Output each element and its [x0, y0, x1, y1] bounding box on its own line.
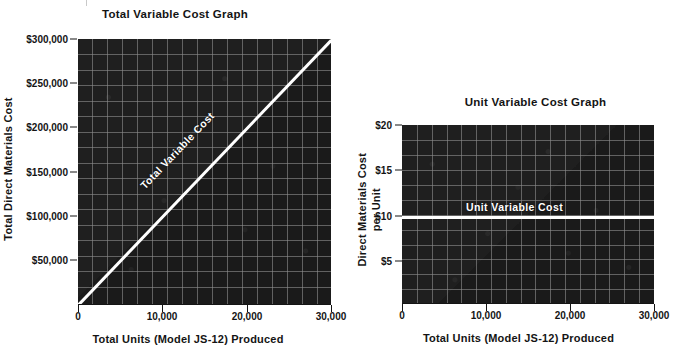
x-tick-label: 30,000: [639, 310, 670, 321]
chart-unit-variable-cost: Unit Variable Cost Graph Direct Material…: [346, 0, 679, 357]
y-tick-label: $150,000: [2, 167, 68, 178]
series-label-unit-variable-cost: Unit Variable Cost: [466, 201, 563, 213]
plot-texture-total: [78, 39, 331, 304]
y-tick-label: $250,000: [2, 78, 68, 89]
y-tick-label: $50,000: [2, 255, 68, 266]
series-label-total-variable-cost: Total Variable Cost: [138, 110, 217, 192]
y-tick-label: $15: [360, 165, 392, 176]
series-line-unit-variable-cost: [402, 216, 654, 219]
plot-texture-unit: [402, 125, 654, 303]
x-tick-label: 20,000: [232, 311, 263, 322]
plot-grid-unit: [402, 125, 654, 303]
x-tick-label: 10,000: [147, 311, 178, 322]
plot-grid-total: [78, 39, 331, 304]
chart-total-variable-cost: Total Variable Cost Graph Total Direct M…: [0, 0, 346, 357]
plot-area-total: Total Variable Cost: [78, 39, 331, 304]
y-tick-label: $300,000: [2, 34, 68, 45]
y-tick-label: $20: [360, 120, 392, 131]
figure-container: Total Variable Cost Graph Total Direct M…: [0, 0, 679, 357]
x-axis-label-total: Total Units (Model JS-12) Produced: [40, 333, 336, 345]
y-tick-label: $100,000: [2, 211, 68, 222]
x-tick-label: 20,000: [555, 310, 586, 321]
x-axis-line-total: [78, 304, 331, 305]
x-tick-label: 0: [399, 310, 405, 321]
y-tick-label: $200,000: [2, 122, 68, 133]
series-line-total-variable-cost: [78, 39, 331, 304]
chart-title-total: Total Variable Cost Graph: [20, 8, 330, 20]
y-tick-label: $5: [360, 256, 392, 267]
x-tick-label: 30,000: [316, 311, 347, 322]
x-tick-label: 0: [75, 311, 81, 322]
chart-title-unit: Unit Variable Cost Graph: [402, 96, 669, 108]
x-tick-label: 10,000: [471, 310, 502, 321]
x-axis-label-unit: Total Units (Model JS-12) Produced: [366, 332, 671, 344]
plot-area-unit: Unit Variable Cost: [402, 125, 654, 303]
y-tick-label: $10: [360, 211, 392, 222]
x-axis-line-unit: [402, 303, 654, 304]
